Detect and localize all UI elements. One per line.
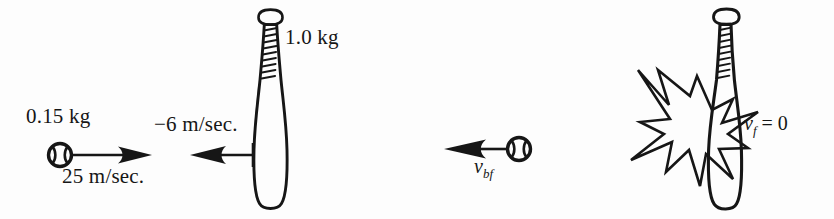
velocity-subscript: bf <box>483 166 493 181</box>
bat-mass-label-left: 1.0 kg <box>285 27 339 48</box>
bat-velocity-arrow-left <box>190 143 253 167</box>
bat-velocity-label-left: −6 m/sec. <box>154 114 238 135</box>
bat-velocity-label-right: vf = 0 <box>744 113 788 137</box>
baseball-bat-icon <box>254 10 288 209</box>
velocity-value: = 0 <box>762 112 788 134</box>
velocity-symbol: v <box>744 112 753 134</box>
ball-velocity-label-right: vbf <box>474 156 493 180</box>
velocity-symbol: v <box>474 155 483 177</box>
ball-velocity-label-left: 25 m/sec. <box>62 166 144 187</box>
baseball-icon <box>508 138 531 161</box>
ball-velocity-arrow-right <box>72 147 152 164</box>
physics-diagram: 0.15 kg 25 m/sec. −6 m/sec. 1.0 kg vbf v… <box>0 0 834 219</box>
ball-mass-label-left: 0.15 kg <box>26 106 90 127</box>
